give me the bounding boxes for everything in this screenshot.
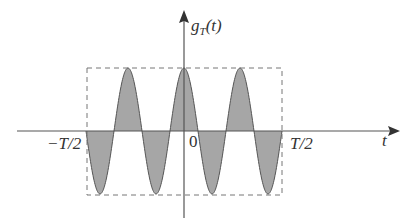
- tick-label-origin: 0: [189, 132, 198, 152]
- y-axis-label: gT(t): [191, 16, 222, 37]
- tick-label-negative-half-period: −T/2: [47, 134, 81, 154]
- y-axis-label-suffix: (t): [206, 16, 222, 35]
- signal-diagram: gT(t) t −T/2 0 T/2: [0, 0, 414, 223]
- x-axis-label: t: [382, 131, 387, 151]
- tick-label-positive-half-period: T/2: [290, 134, 313, 154]
- y-axis-label-main: g: [191, 16, 200, 35]
